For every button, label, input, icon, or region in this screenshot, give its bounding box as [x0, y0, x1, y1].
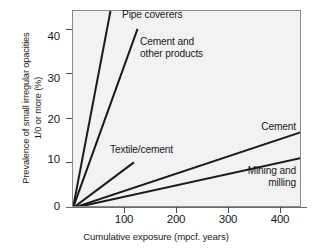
series-label-cement-other-line2: other products: [140, 48, 203, 60]
x-tick-label-400: 400: [258, 213, 302, 225]
series-label-mining-line2: milling: [192, 177, 296, 189]
x-tick-label-200: 200: [154, 213, 198, 225]
x-tick-label-100: 100: [102, 213, 146, 225]
x-axis-title: Cumulative exposure (mpcf. years): [0, 231, 312, 242]
series-label-cement-and-other-products: Cement and other products: [140, 36, 203, 61]
y-tick-label-10: 10: [20, 153, 60, 165]
data-line-cement-and-other-products: [73, 29, 138, 207]
series-label-cement: Cement: [192, 121, 296, 133]
y-tick-label-20: 20: [20, 113, 60, 125]
series-label-mining-and-milling: Mining and milling: [192, 165, 296, 190]
series-label-textile-cement: Textile/cement: [110, 144, 173, 156]
y-tick-label-40: 40: [20, 30, 60, 42]
series-label-mining-line1: Mining and: [192, 165, 296, 177]
series-label-pipe-coverers: Pipe coverers: [122, 9, 182, 21]
chart-figure: Prevalence of small irregular opacities …: [0, 0, 312, 251]
y-tick-label-0: 0: [20, 200, 60, 212]
x-tick-label-300: 300: [206, 213, 250, 225]
y-tick-label-30: 30: [20, 72, 60, 84]
series-label-cement-other-line1: Cement and: [140, 36, 203, 48]
data-line-pipe-coverers: [73, 11, 110, 207]
x-axis-line: [66, 207, 307, 208]
